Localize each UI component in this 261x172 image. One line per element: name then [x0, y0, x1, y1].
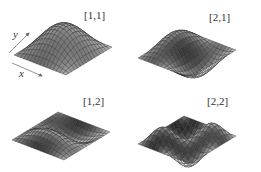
panel-mode-1-2: [1,2]	[0, 86, 130, 172]
surface-mesh-2-1	[130, 0, 261, 86]
surface-mesh-1-2	[0, 86, 130, 172]
panel-label: [2,2]	[207, 95, 228, 107]
panel-label: [2,1]	[209, 11, 230, 23]
panel-mode-2-1: [2,1]	[130, 0, 260, 86]
axis-arrows	[0, 0, 130, 86]
surface-mesh-2-2	[130, 86, 261, 172]
panel-label: [1,2]	[83, 95, 104, 107]
panel-mode-2-2: [2,2]	[130, 86, 260, 172]
panel-mode-1-1: [1,1] y x	[0, 0, 130, 86]
